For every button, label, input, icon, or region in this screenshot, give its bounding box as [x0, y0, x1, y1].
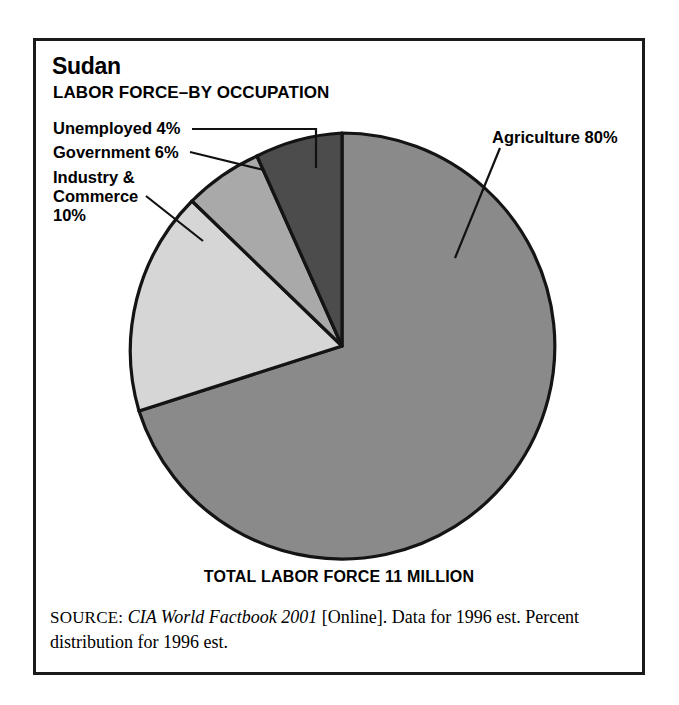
source-label: SOURCE: [50, 608, 123, 627]
slice-label-unemployed: Unemployed 4% [53, 119, 180, 138]
figure-page: Sudan LABOR FORCE–BY OCCUPATION Unemploy… [0, 0, 679, 705]
slice-label-government: Government 6% [53, 143, 179, 162]
slice-label-agriculture: Agriculture 80% [492, 128, 618, 147]
source-note: SOURCE: CIA World Factbook 2001 [Online]… [50, 605, 630, 654]
page-title: Sudan [52, 55, 121, 78]
chart-subtitle: LABOR FORCE–BY OCCUPATION [53, 84, 329, 101]
slice-label-industry-commerce: Industry & Commerce 10% [53, 168, 138, 225]
source-publication: CIA World Factbook 2001 [128, 607, 318, 627]
total-labor-force-caption: TOTAL LABOR FORCE 11 MILLION [33, 568, 645, 586]
